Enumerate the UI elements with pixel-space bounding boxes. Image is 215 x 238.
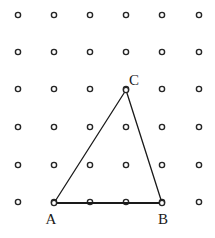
grid-dot-r4-c3 [87,124,92,129]
grid-dot-r2-c1 [15,49,20,54]
grid-dot-r3-c5 [159,86,164,91]
grid-dot-r2-c6 [196,49,201,54]
vertex-label-c: C [129,72,139,88]
grid-dot-r4-c1 [15,124,20,129]
grid-dot-r1-c4 [123,12,128,17]
grid-dot-r2-c4 [123,49,128,54]
grid-dot-r1-c3 [87,12,92,17]
vertex-label-a: A [46,211,57,227]
grid-dot-r4-c6 [196,124,201,129]
grid-dot-r3-c1 [15,86,20,91]
grid-dot-r5-c2 [51,162,56,167]
grid-dot-r2-c2 [51,49,56,54]
vertex-label-b: B [158,211,168,227]
vertex-dot-a [51,200,56,205]
grid-dot-r5-c5 [159,162,164,167]
grid-dot-r1-c1 [15,12,20,17]
grid-dot-r2-c3 [87,49,92,54]
grid-dot-r3-c3 [87,86,92,91]
grid-dot-r5-c1 [15,162,20,167]
grid-dot-r4-c5 [159,124,164,129]
grid-dot-r1-c2 [51,12,56,17]
grid-dot-r3-c6 [196,86,201,91]
grid-dot-r3-c2 [51,86,56,91]
figure-canvas: ABC [0,0,215,238]
grid-dot-r5-c3 [87,162,92,167]
grid-dot-r1-c5 [159,12,164,17]
vertex-dot-b [159,200,164,205]
grid-dot-r4-c4 [123,124,128,129]
grid-dot-r5-c4 [123,162,128,167]
grid-dot-r1-c6 [196,12,201,17]
grid-dot-r2-c5 [159,49,164,54]
grid-dot-r6-c1 [15,199,20,204]
vertex-dot-c [123,87,128,92]
dot-grid-figure: ABC [0,0,215,238]
grid-dot-r4-c2 [51,124,56,129]
grid-dot-r5-c6 [196,162,201,167]
grid-dot-r6-c6 [196,199,201,204]
